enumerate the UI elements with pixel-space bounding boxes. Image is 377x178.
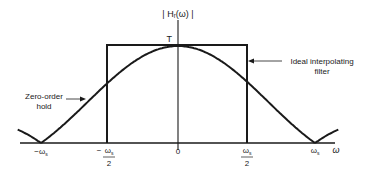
svg-text:2: 2 <box>107 159 112 168</box>
tick-ws: ωs <box>311 146 320 156</box>
x-axis-label: ω <box>332 145 339 155</box>
svg-text:2: 2 <box>245 159 250 168</box>
peak-label: T <box>167 34 173 44</box>
svg-text:ωs: ωs <box>105 146 114 156</box>
svg-text:−ωs: −ωs <box>34 147 48 157</box>
svg-text:ωs: ωs <box>311 146 320 156</box>
svg-text:ωs: ωs <box>243 146 252 156</box>
diagram-canvas: | Hᵣ(ω) | T ω −ωs − ωs 2 0 ωs 2 ωs Ideal… <box>0 0 377 178</box>
tick-neg-half-ws: − ωs 2 <box>97 146 115 168</box>
tick-zero: 0 <box>176 147 181 156</box>
svg-text:0: 0 <box>176 147 181 156</box>
svg-text:hold: hold <box>36 102 51 111</box>
ideal-filter-curve <box>107 45 247 143</box>
svg-text:−: − <box>97 146 102 155</box>
annotation-ideal-filter: Ideal interpolating filter <box>248 57 354 76</box>
tick-half-ws: ωs 2 <box>241 146 253 168</box>
svg-text:Zero-order: Zero-order <box>25 92 63 101</box>
annotation-zero-order-hold: Zero-order hold <box>25 92 86 111</box>
tick-neg-ws: −ωs <box>34 147 48 157</box>
svg-text:filter: filter <box>314 67 329 76</box>
svg-text:Ideal interpolating: Ideal interpolating <box>290 57 353 66</box>
y-axis-label: | Hᵣ(ω) | <box>162 9 193 19</box>
